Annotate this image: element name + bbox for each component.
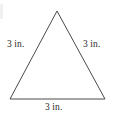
bottom-side-length-label: 3 in.	[45, 103, 62, 113]
left-side-length-label: 3 in.	[7, 40, 24, 50]
triangle-outline	[10, 11, 105, 99]
triangle-figure: 3 in. 3 in. 3 in.	[0, 0, 114, 121]
right-side-length-label: 3 in.	[83, 40, 100, 50]
